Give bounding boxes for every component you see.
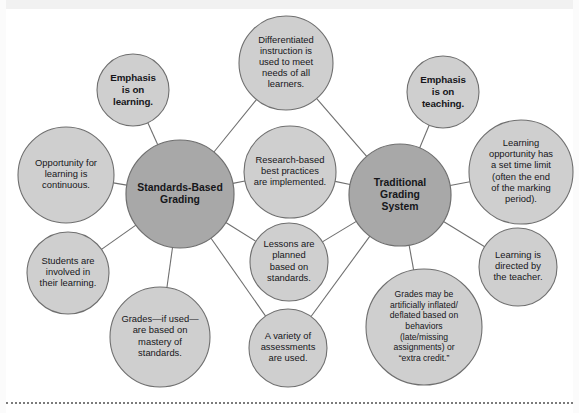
- satellite-node-emphasis-on-teaching[interactable]: Emphasisis onteaching.: [407, 56, 479, 128]
- satellite-label-research-based-practices: Research-basedbest practicesare implemen…: [254, 154, 326, 187]
- hub-node-standards-based-grading[interactable]: Standards-BasedGrading: [126, 140, 234, 248]
- satellite-label-lessons-planned-standards: Lessons areplannedbased onstandards.: [263, 239, 314, 284]
- satellite-label-students-involved: Students areinvolved intheir learning.: [40, 255, 97, 288]
- satellite-node-set-time-limit[interactable]: Learningopportunity hasa set time limit(…: [469, 120, 573, 224]
- connector-tgs-grades-inflated: [409, 245, 414, 270]
- satellite-node-grades-inflated-deflated[interactable]: Grades may beartificially inflated/defla…: [366, 269, 482, 385]
- satellite-label-variety-of-assessments: A variety ofassessmentsare used.: [261, 330, 316, 363]
- connector-tgs-emphasis-teaching: [420, 125, 429, 148]
- satellite-node-students-involved[interactable]: Students areinvolved intheir learning.: [27, 232, 109, 314]
- satellite-node-teacher-directed[interactable]: Learning isdirected bythe teacher.: [479, 228, 557, 306]
- connector-sbg-grades-mastery: [167, 247, 173, 287]
- satellite-node-differentiated-instruction[interactable]: Differentiatedinstruction isused to meet…: [239, 16, 333, 110]
- connector-sbg-students-involved: [102, 225, 136, 249]
- bottom-dotted-rule: [6, 402, 573, 404]
- connector-sbg-emphasis-learning: [148, 123, 158, 145]
- satellite-node-emphasis-on-learning[interactable]: Emphasisis onlearning.: [97, 54, 169, 126]
- node-layer: Emphasisis onlearning.Opportunity forlea…: [18, 16, 573, 387]
- hub-node-traditional-grading-system[interactable]: TraditionalGradingSystem: [349, 144, 451, 246]
- connector-sbg-differentiated: [214, 100, 256, 152]
- satellite-node-lessons-planned-standards[interactable]: Lessons areplannedbased onstandards.: [250, 223, 328, 301]
- satellite-label-teacher-directed: Learning isdirected bythe teacher.: [494, 249, 543, 282]
- connector-tgs-lessons: [322, 221, 356, 242]
- connector-sbg-opportunity: [113, 183, 126, 185]
- satellite-node-variety-of-assessments[interactable]: A variety ofassessmentsare used.: [249, 309, 327, 387]
- connector-tgs-teacher-directed: [444, 222, 485, 247]
- satellite-node-opportunity-continuous[interactable]: Opportunity forlearning iscontinuous.: [18, 127, 114, 223]
- concept-map-canvas: Emphasisis onlearning.Opportunity forlea…: [0, 0, 579, 413]
- connector-sbg-research: [233, 181, 245, 183]
- hub-label-traditional-grading-system: TraditionalGradingSystem: [374, 176, 427, 212]
- diagram-page: Emphasisis onlearning.Opportunity forlea…: [0, 0, 579, 413]
- satellite-node-grades-mastery[interactable]: Grades—if used—are based onmastery ofsta…: [110, 287, 210, 387]
- connector-tgs-time-limit: [450, 182, 470, 186]
- connector-sbg-lessons: [226, 223, 256, 242]
- connector-tgs-research: [335, 181, 350, 184]
- satellite-node-research-based-practices[interactable]: Research-basedbest practicesare implemen…: [244, 126, 336, 218]
